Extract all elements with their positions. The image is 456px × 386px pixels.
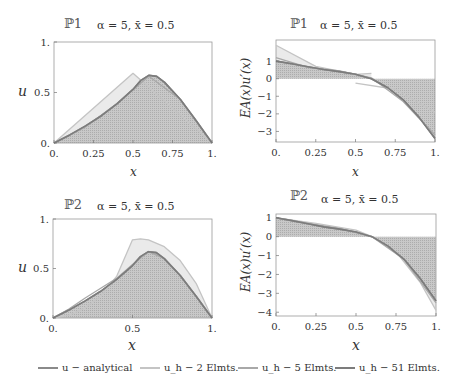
legend-item-5-elements: u_h − 5 Elmts. [238, 362, 336, 373]
y-tick-label: 0. [40, 138, 50, 149]
problem-label-p1: ℙ1 [290, 16, 308, 31]
x-axis-label: x [352, 337, 360, 353]
problem-label-p2: ℙ2 [64, 197, 82, 212]
y-tick-label: 1 [266, 56, 272, 67]
x-tick-label: 0.25 [305, 147, 327, 158]
y-tick-label: −4 [257, 307, 272, 318]
plot-area: 0.0.250.50.751.10−1−2−3−4 [257, 212, 441, 332]
x-tick-label: 0.25 [82, 148, 104, 159]
x-tick-label: 1. [431, 321, 441, 332]
legend-swatch [335, 367, 355, 369]
x-axis-label: x [352, 165, 359, 179]
y-tick-label: −2 [257, 269, 272, 280]
x-tick-label: 0. [48, 323, 58, 334]
x-tick-label: 0. [271, 321, 281, 332]
y-axis-label: u [18, 259, 27, 275]
problem-label-p2: ℙ2 [290, 188, 308, 203]
plot-area: 0.0.51.0.0.51. [33, 214, 217, 335]
plot-area: 0.0.250.50.751.10−1−2−3 [257, 40, 440, 158]
panel-title: α = 5, x̄ = 0.5 [321, 193, 399, 206]
y-tick-label: −3 [257, 126, 272, 137]
legend-label: u_h − 5 Elmts. [262, 362, 336, 373]
legend-label: u − analytical [62, 362, 132, 373]
legend-item-51-elements: u_h − 51 Elmts. [335, 362, 440, 373]
legend-item-2-elements: u_h − 2 Elmts. [140, 362, 238, 373]
panel-p1-displacement: ℙ1 α = 5, x̄ = 0.5 0.0.250.50.751.0.0.51… [18, 16, 217, 179]
area-fill [276, 61, 435, 138]
figure-canvas: ℙ1 α = 5, x̄ = 0.5 0.0.250.50.751.0.0.51… [0, 0, 456, 386]
y-axis-label: EA(x)u′(x) [239, 58, 253, 119]
problem-label-p1: ℙ1 [64, 16, 82, 31]
y-axis-label: EA(x)u′(x) [239, 232, 253, 293]
y-tick-label: −1 [257, 91, 272, 102]
legend: u − analytical u_h − 2 Elmts. u_h − 5 El… [38, 362, 438, 382]
legend-label: u_h − 2 Elmts. [164, 362, 238, 373]
y-tick-label: −2 [257, 108, 272, 119]
panel-p2-flux: ℙ2 α = 5, x̄ = 0.5 0.0.250.50.751.10−1−2… [239, 188, 441, 353]
x-axis-label: x [130, 165, 137, 179]
panel-p1-flux: ℙ1 α = 5, x̄ = 0.5 0.0.250.50.751.10−1−2… [239, 16, 440, 179]
x-tick-label: 0.5 [348, 321, 364, 332]
legend-swatch [140, 367, 160, 369]
y-tick-label: 0.5 [33, 263, 49, 274]
y-tick-label: 1. [39, 214, 49, 225]
x-tick-label: 0.75 [385, 321, 407, 332]
x-tick-label: 1. [207, 148, 217, 159]
panel-title: α = 5, x̄ = 0.5 [320, 19, 398, 32]
y-tick-label: −3 [257, 288, 272, 299]
y-tick-label: −1 [257, 250, 272, 261]
y-tick-label: 0. [39, 313, 49, 324]
y-tick-label: 1 [266, 212, 272, 223]
x-axis-label: x [128, 337, 136, 353]
panel-title: α = 5, x̄ = 0.5 [97, 19, 175, 32]
x-tick-label: 0.75 [161, 148, 183, 159]
legend-swatch [238, 367, 258, 369]
panel-p2-displacement: ℙ2 α = 5, x̄ = 0.5 0.0.51.0.0.51. u x [18, 197, 217, 353]
x-tick-label: 0.75 [384, 147, 406, 158]
y-tick-label: 0 [266, 73, 272, 84]
x-tick-label: 0.25 [305, 321, 327, 332]
legend-swatch [38, 367, 58, 369]
legend-label: u_h − 51 Elmts. [359, 362, 440, 373]
x-tick-label: 1. [207, 323, 217, 334]
x-tick-label: 0.5 [125, 148, 141, 159]
plot-area: 0.0.250.50.751.0.0.51. [34, 37, 217, 160]
y-axis-label: u [18, 83, 27, 99]
x-tick-label: 0. [271, 147, 281, 158]
panel-title: α = 5, x̄ = 0.5 [97, 200, 175, 213]
y-tick-label: 0 [266, 231, 272, 242]
y-tick-label: 1. [40, 37, 50, 48]
legend-item-analytical: u − analytical [38, 362, 132, 373]
x-tick-label: 0. [49, 148, 59, 159]
x-tick-label: 0.5 [348, 147, 364, 158]
x-tick-label: 1. [430, 147, 440, 158]
y-tick-label: 0.5 [34, 87, 50, 98]
x-tick-label: 0.5 [125, 323, 141, 334]
